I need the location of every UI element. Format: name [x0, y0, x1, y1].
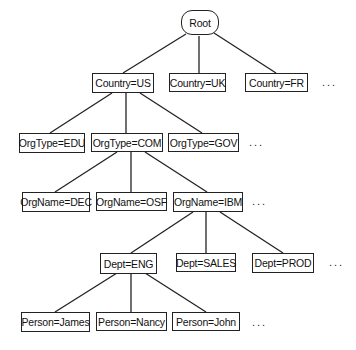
node-dept-sales: Dept=SALES — [176, 253, 236, 272]
node-dept-prod: Dept=PROD — [252, 253, 314, 273]
ellipsis-depts: ... — [329, 256, 344, 268]
node-person-john: Person=John — [172, 312, 240, 331]
node-country-uk: Country=UK — [169, 73, 226, 92]
node-dept-eng: Dept=ENG — [100, 253, 157, 274]
node-root: Root — [181, 10, 219, 35]
node-country-us: Country=US — [92, 73, 154, 93]
ellipsis-orgnames: ... — [252, 195, 267, 207]
node-orgname-osf: OrgName=OSF — [96, 192, 167, 211]
ellipsis-orgtypes: ... — [249, 136, 264, 148]
node-orgname-dec: OrgName=DEC — [22, 192, 90, 212]
node-orgname-ibm: OrgName=IBM — [173, 192, 243, 212]
node-person-james: Person=James — [21, 312, 90, 332]
node-country-fr: Country=FR — [245, 73, 308, 92]
node-person-nancy: Person=Nancy — [96, 312, 167, 331]
ellipsis-persons: ... — [252, 316, 267, 328]
tree-edges — [0, 0, 356, 350]
node-orgtype-edu: OrgType=EDU — [19, 133, 85, 153]
ellipsis-countries: ... — [322, 76, 337, 88]
node-orgtype-com: OrgType=COM — [91, 133, 163, 152]
node-orgtype-gov: OrgType=GOV — [168, 133, 239, 152]
